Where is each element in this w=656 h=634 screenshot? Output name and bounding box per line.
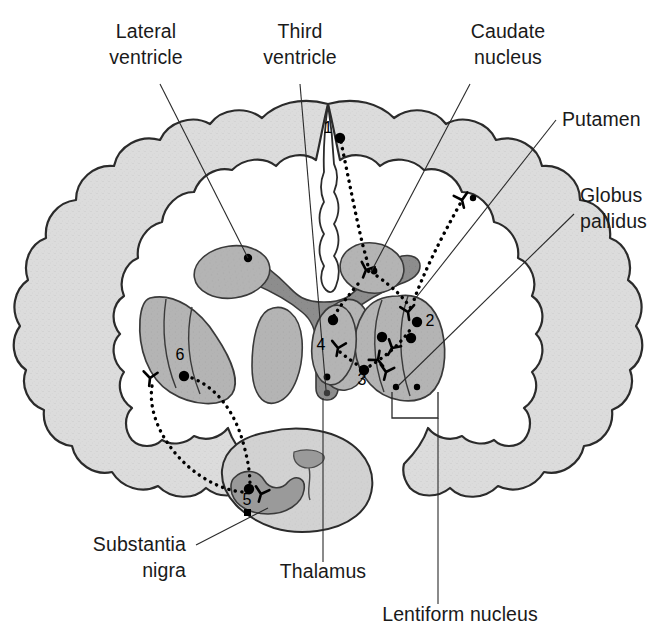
lateral-ventricle-left [191, 241, 273, 303]
leader-substantia-nigra [196, 508, 268, 545]
marker-2-number: 2 [426, 312, 435, 329]
lentiform-nucleus-left [140, 297, 235, 404]
marker-4-number: 4 [317, 336, 326, 353]
marker-4-dot [328, 315, 338, 325]
marker-5-number: 5 [243, 491, 252, 508]
marker-1-number: 1 [324, 119, 333, 136]
marker-6-dot [179, 371, 189, 381]
label-lentiform-nucleus: Lentiform nucleus [382, 603, 538, 625]
marker-6-number: 6 [176, 346, 185, 363]
thalamus-left [252, 308, 302, 404]
marker-2-dot [412, 317, 422, 327]
label-putamen: Putamen [562, 108, 641, 130]
marker-3-number: 3 [358, 371, 367, 388]
label-thalamus: Thalamus [280, 560, 367, 582]
label-third-ventricle: Thirdventricle [263, 20, 337, 68]
label-lateral-ventricle: Lateralventricle [109, 20, 183, 68]
brain-diagram-figure: 123456 LateralventricleThirdventricleCau… [0, 0, 656, 634]
label-caudate-nucleus: Caudatenucleus [471, 20, 545, 68]
coronal-brain-section-diagram: 123456 LateralventricleThirdventricleCau… [0, 0, 656, 634]
label-substantia-nigra: Substantianigra [93, 533, 186, 581]
marker-1-dot [335, 133, 345, 143]
